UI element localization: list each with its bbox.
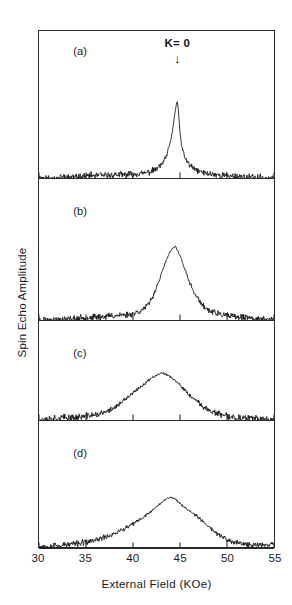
- panel-c: (c): [39, 321, 274, 421]
- plot-stack: (a)(b)(c)(d): [38, 30, 275, 548]
- panel-d: (d): [39, 421, 274, 549]
- figure-container: Spin Echo Amplitude (a)(b)(c)(d) K= 0 ↓ …: [0, 0, 292, 605]
- trace-line: [39, 497, 274, 549]
- x-tick-label: 40: [126, 552, 139, 564]
- x-tick-label: 45: [174, 552, 187, 564]
- panel-b: (b): [39, 179, 274, 321]
- x-tick-label: 55: [268, 552, 281, 564]
- panel-a: (a): [39, 31, 274, 179]
- trace-line: [39, 372, 274, 421]
- x-tick-label: 50: [221, 552, 234, 564]
- x-axis-label: External Field (KOe): [38, 578, 275, 590]
- y-axis-label: Spin Echo Amplitude: [8, 0, 36, 605]
- trace-line: [39, 102, 274, 179]
- trace-line: [39, 246, 274, 321]
- x-tick-label: 35: [79, 552, 92, 564]
- x-axis-tick-labels: 303540455055: [38, 552, 275, 568]
- x-tick-label: 30: [31, 552, 44, 564]
